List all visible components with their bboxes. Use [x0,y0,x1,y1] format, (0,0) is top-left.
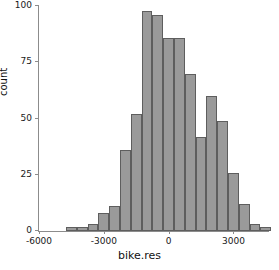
y-axis-tick-label: 50 [21,113,32,124]
histogram-bar [185,74,196,232]
y-axis-label: count [0,68,9,96]
histogram-bar [77,227,88,232]
histogram-bar [131,114,142,231]
x-axis-tick-mark [169,231,170,234]
y-axis-tick-mark [35,5,38,6]
histogram-bar [206,96,217,231]
x-axis-tick-mark [104,231,105,234]
histogram-bar [152,15,163,231]
y-axis-tick: 50 [0,113,38,124]
histogram-bar [196,137,207,232]
histogram-bar [228,173,239,232]
histogram-figure: count bike.res 0255075100 -6000-30000300… [0,0,279,270]
histogram-bar [250,224,261,231]
y-axis-tick-mark [35,118,38,119]
histogram-bar [174,38,185,232]
x-axis-tick-mark [233,231,234,234]
x-axis-tick-label: -6000 [26,236,52,246]
y-axis-tick-label: 100 [15,0,32,11]
histogram-bar [163,38,174,232]
y-axis-tick-label: 25 [21,169,32,180]
y-axis-tick: 100 [0,0,38,11]
y-axis-tick-mark [35,61,38,62]
x-axis-tick-label: 0 [166,236,172,246]
x-axis-tick-label: -3000 [91,236,117,246]
histogram-bar [109,206,120,231]
x-axis-tick-label: 3000 [222,236,245,246]
y-axis-tick: 0 [0,225,38,236]
plot-area [39,6,268,231]
histogram-bar [98,213,109,231]
histogram-bar [120,150,131,231]
histogram-bar [260,227,271,232]
y-axis-tick-mark [35,174,38,175]
histogram-bar [217,121,228,231]
y-axis-tick-mark [35,230,38,231]
x-axis-label: bike.res [0,249,279,262]
y-axis-tick: 75 [0,56,38,67]
histogram-bar [142,11,153,232]
y-axis-tick-label: 75 [21,56,32,67]
histogram-bar [239,204,250,231]
y-axis-tick: 25 [0,169,38,180]
histogram-bar [88,224,99,231]
histogram-bar [66,227,77,232]
x-axis-tick-mark [39,231,40,234]
y-axis-tick-label: 0 [26,225,32,236]
